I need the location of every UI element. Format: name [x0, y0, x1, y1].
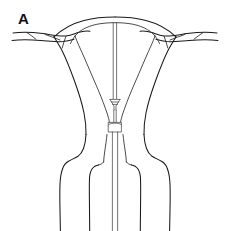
cornual-junction-lines: [62, 36, 168, 48]
catheter-tip-device: [110, 99, 120, 110]
anatomical-diagram: [0, 0, 230, 231]
figure-panel: A: [0, 0, 230, 231]
transcervical-catheter: [109, 23, 122, 231]
cervical-stopper: [109, 122, 122, 132]
vaginal-canal: [60, 165, 170, 231]
cervix: [63, 135, 168, 170]
